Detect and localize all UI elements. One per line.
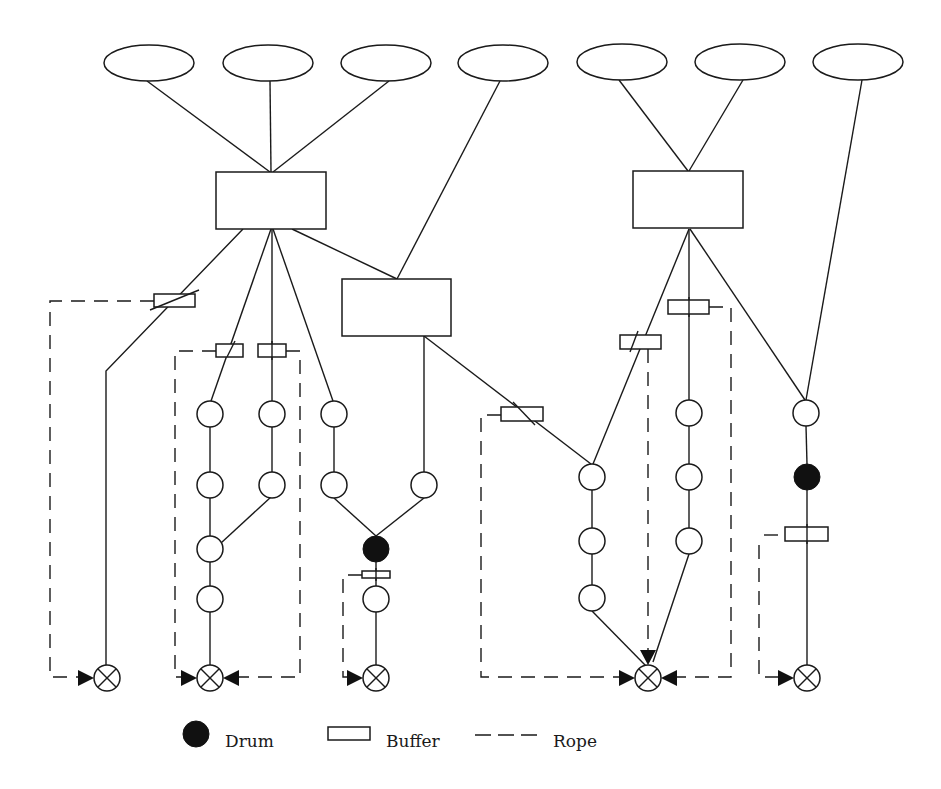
buffers — [154, 294, 828, 578]
operation-node — [579, 585, 605, 611]
operation-node — [579, 464, 605, 490]
operation-node — [321, 401, 347, 427]
arrow-right-icon — [181, 670, 197, 686]
legend-drum-icon — [183, 721, 209, 747]
buffer — [620, 335, 661, 349]
operation-node — [197, 586, 223, 612]
operation-node — [259, 472, 285, 498]
operation-node — [321, 472, 347, 498]
operation-node — [259, 401, 285, 427]
operation-node — [363, 586, 389, 612]
operation-node — [793, 400, 819, 426]
arrow-right-icon — [78, 670, 94, 686]
operation-node — [197, 472, 223, 498]
shipping-point-icon — [794, 665, 820, 691]
legend-buffer-label: Buffer — [386, 731, 441, 751]
drum-buffer-rope-diagram: Drum Buffer Rope — [0, 0, 941, 789]
box-node — [342, 279, 451, 336]
shipping-point-icon — [197, 665, 223, 691]
operation-node — [197, 536, 223, 562]
legend: Drum Buffer Rope — [183, 721, 597, 751]
drum-node — [794, 464, 820, 490]
arrow-right-icon — [778, 670, 794, 686]
ellipse-node — [458, 45, 548, 81]
operation-node — [676, 400, 702, 426]
ellipse-node — [223, 45, 313, 81]
ellipse-node — [104, 45, 194, 81]
arrow-right-icon — [347, 670, 363, 686]
shipping-point-icon — [635, 665, 661, 691]
operation-node — [579, 528, 605, 554]
rope-arrowheads — [78, 650, 794, 686]
drum-node — [363, 536, 389, 562]
shipping-point-icon — [94, 665, 120, 691]
demand-ellipses — [104, 44, 903, 81]
operation-node — [676, 528, 702, 554]
ellipse-node — [813, 44, 903, 80]
arrow-left-icon — [661, 670, 677, 686]
shipping-points — [94, 665, 820, 691]
ellipse-node — [695, 44, 785, 80]
operation-node — [197, 401, 223, 427]
operation-node — [411, 472, 437, 498]
shipping-point-icon — [363, 665, 389, 691]
process-boxes — [216, 171, 743, 336]
legend-rope-label: Rope — [553, 731, 597, 751]
flow-lines — [106, 80, 862, 666]
through-buffer-lines — [150, 290, 807, 581]
ellipse-node — [341, 45, 431, 81]
legend-buffer-icon — [328, 727, 370, 740]
arrow-right-icon — [619, 670, 635, 686]
operations — [197, 400, 819, 612]
buffer — [501, 407, 543, 421]
operation-node — [676, 464, 702, 490]
legend-drum-label: Drum — [225, 731, 274, 751]
arrow-left-icon — [223, 670, 239, 686]
box-node — [633, 171, 743, 228]
box-node — [216, 172, 326, 229]
ellipse-node — [577, 44, 667, 80]
